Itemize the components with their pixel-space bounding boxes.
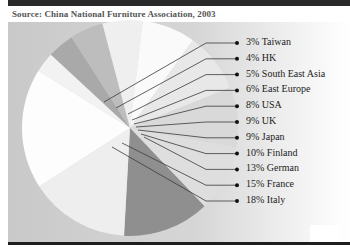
legend-label: 5% South East Asia [246, 68, 325, 79]
legend-label: 6% East Europe [246, 83, 310, 94]
bullet-dot-icon [235, 73, 239, 77]
legend-label: 3% Taiwan [246, 36, 291, 47]
bullet-dot-icon [235, 88, 239, 92]
bullet-dot-icon [235, 57, 239, 61]
bullet-dot-icon [235, 199, 239, 203]
legend-label: 10% Finland [246, 147, 297, 158]
legend-label: 9% Japan [246, 131, 285, 142]
legend-label: 13% German [246, 162, 299, 173]
bullet-dot-icon [235, 152, 239, 156]
bullet-dot-icon [235, 167, 239, 171]
legend-label: 8% USA [246, 99, 282, 110]
bullet-dot-icon [235, 104, 239, 108]
bullet-dot-icon [235, 120, 239, 124]
legend-label: 15% France [246, 178, 294, 189]
bullet-dot-icon [235, 183, 239, 187]
bullet-dot-icon [235, 41, 239, 45]
legend-label: 9% UK [246, 115, 276, 126]
pie-chart [0, 0, 350, 248]
bullet-dot-icon [235, 136, 239, 140]
legend-label: 4% HK [246, 52, 276, 63]
legend-label: 18% Italy [246, 194, 285, 205]
